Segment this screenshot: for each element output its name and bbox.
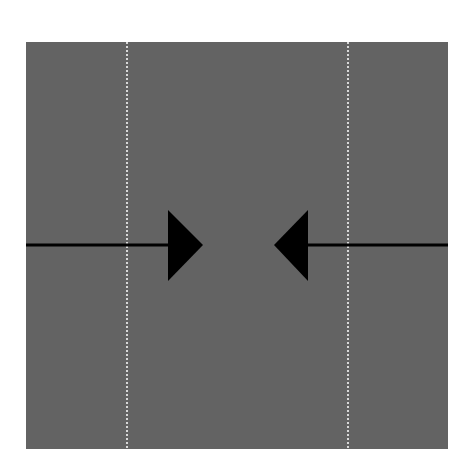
diagram-canvas <box>0 0 473 475</box>
diagram <box>0 0 473 475</box>
